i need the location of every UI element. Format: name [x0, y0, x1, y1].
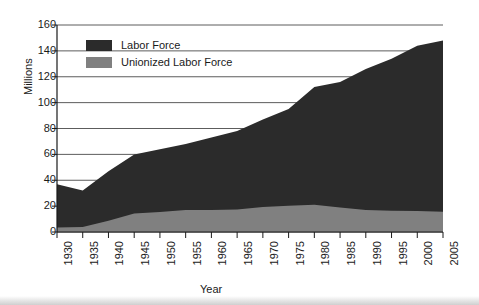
chart-legend: Labor Force Unionized Labor Force	[86, 37, 232, 73]
legend-item-unionized-labor-force: Unionized Labor Force	[86, 55, 232, 69]
x-tick-label: 1965	[242, 241, 254, 265]
x-axis-title: Year	[200, 283, 222, 295]
labor-force-area-chart: Millions 020406080100120140160 193019351…	[0, 0, 479, 305]
x-tick-label: 1950	[165, 241, 177, 265]
y-tick-label: 80	[30, 122, 56, 134]
x-tick-label: 1990	[371, 241, 383, 265]
x-tick-label: 1975	[294, 241, 306, 265]
y-tick-label: 20	[30, 199, 56, 211]
x-tick-label: 2000	[422, 241, 434, 265]
legend-label-labor-force: Labor Force	[121, 39, 180, 51]
x-tick-label: 1980	[319, 241, 331, 265]
x-tick-label: 1960	[216, 241, 228, 265]
y-tick-label: 120	[30, 70, 56, 82]
x-tick-label: 1935	[88, 241, 100, 265]
x-tick-label: 1995	[397, 241, 409, 265]
x-tick-label: 1930	[62, 241, 74, 265]
y-tick-label: 60	[30, 147, 56, 159]
legend-swatch-labor-force	[86, 40, 112, 51]
x-tick-label: 1985	[345, 241, 357, 265]
page-bottom-band	[0, 296, 479, 305]
y-tick-label: 40	[30, 173, 56, 185]
y-tick-label: 100	[30, 96, 56, 108]
y-tick-label: 160	[30, 18, 56, 30]
legend-label-unionized: Unionized Labor Force	[121, 56, 232, 68]
legend-item-labor-force: Labor Force	[86, 38, 232, 52]
x-tick-label: 1955	[191, 241, 203, 265]
x-tick-label: 1945	[139, 241, 151, 265]
x-tick-label: 1970	[268, 241, 280, 265]
x-tick-label: 1940	[113, 241, 125, 265]
legend-swatch-unionized	[86, 57, 112, 68]
y-tick-label: 140	[30, 44, 56, 56]
y-axis-tick-labels: 020406080100120140160	[22, 0, 56, 305]
x-tick-label: 2005	[448, 241, 460, 265]
y-tick-label: 0	[30, 225, 56, 237]
